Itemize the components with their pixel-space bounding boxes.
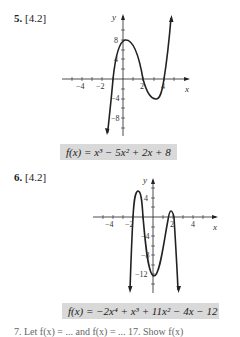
x-tick-label: 2 [170,220,174,229]
y-axis-label: y [111,12,116,22]
section-ref: [4.2] [25,171,46,183]
x-tick-label: 4 [191,220,195,229]
problem-number: 6. [14,171,22,183]
y-tick-label: −8 [141,251,150,260]
problem-6-header: 6. [4.2] [14,171,46,183]
x-tick-label: 4 [161,82,165,91]
y-tick-label: 4 [144,194,148,203]
graph-6 [93,178,218,293]
graph-5 [62,14,190,136]
x-tick-label: −2 [96,82,105,91]
y-tick-label: 4 [114,55,118,64]
x-tick-label: −4 [105,220,114,229]
y-axis-label: y [142,175,147,185]
next-problem-partial: 7. Let f(x) = ... and f(x) = ... 17. Sho… [14,326,183,337]
y-tick-label: −12 [135,270,148,279]
y-tick-label: 8 [114,36,118,45]
y-tick-label: −8 [111,114,120,123]
x-axis-label: x [212,222,217,232]
y-tick-label: −4 [111,94,120,103]
x-tick-label: 2 [140,82,144,91]
x-tick-label: −2 [125,220,134,229]
x-axis-label: x [184,84,189,94]
y-tick-label: −4 [141,232,150,241]
formula-6: f(x) = −2x⁴ + x³ + 11x² − 4x − 12 [62,303,219,319]
formula-5: f(x) = x³ − 5x² + 2x + 8 [60,144,177,160]
x-tick-label: −4 [76,82,85,91]
